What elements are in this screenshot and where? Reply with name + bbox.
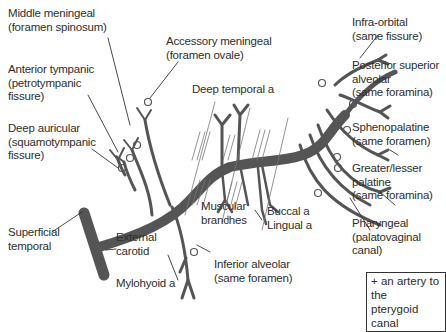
label-infra-orbital: Infra-orbital (same fissure) — [352, 16, 422, 43]
label-line: Infra-orbital — [352, 16, 422, 30]
label-middle-meningeal: Middle meningeal (foramen spinosum) — [8, 7, 107, 34]
label-line: Deep auricular — [8, 122, 96, 136]
note-line: + an artery to the — [371, 274, 441, 302]
label-line: Greater/lesser — [352, 162, 433, 176]
label-line: carotid — [116, 245, 157, 259]
label-line: (same foramina) — [352, 86, 439, 100]
label-line: (foramen ovale) — [166, 49, 272, 63]
label-line: temporal — [8, 240, 60, 254]
label-line: (foramen spinosum) — [8, 21, 107, 35]
label-line: branches — [201, 214, 247, 228]
note-box-pterygoid-canal: + an artery to the pterygoid canal — [366, 272, 446, 332]
label-line: Muscular — [201, 200, 247, 214]
label-line: fissure) — [8, 90, 94, 104]
note-line: pterygoid canal — [371, 302, 441, 330]
label-line: Lingual a — [267, 219, 312, 233]
label-line: (same foramen) — [214, 272, 292, 286]
label-line: Mylohyoid a — [116, 277, 175, 291]
label-posterior-superior-alveolar: Posterior superior alveolar (same forami… — [352, 59, 439, 100]
label-line: alveolar — [352, 73, 439, 87]
label-line: (same foramen) — [352, 135, 430, 149]
label-line: palatine — [352, 176, 433, 190]
label-line: (petrotympanic — [8, 77, 94, 91]
label-line: Anterior tympanic — [8, 63, 94, 77]
label-line: Inferior alveolar — [214, 258, 292, 272]
label-line: canal) — [352, 244, 421, 258]
label-line: Buccal a — [267, 205, 312, 219]
label-deep-auricular: Deep auricular (squamotympanic fissure) — [8, 122, 96, 163]
label-inferior-alveolar: Inferior alveolar (same foramen) — [214, 258, 292, 285]
label-line: (squamotympanic — [8, 136, 96, 150]
label-line: Deep temporal a — [192, 83, 274, 97]
label-line: Middle meningeal — [8, 7, 107, 21]
label-superficial-temporal: Superficial temporal — [8, 226, 60, 253]
label-line: Sphenopalatine — [352, 121, 430, 135]
label-external-carotid: External carotid — [116, 231, 157, 258]
label-line: (palatovaginal — [352, 231, 421, 245]
label-buccal-lingual: Buccal a Lingual a — [267, 205, 312, 232]
label-sphenopalatine: Sphenopalatine (same foramen) — [352, 121, 430, 148]
label-pharyngeal: Pharyngeal (palatovaginal canal) — [352, 217, 421, 258]
label-line: External — [116, 231, 157, 245]
label-line: Superficial — [8, 226, 60, 240]
label-greater-lesser-palatine: Greater/lesser palatine (same foramina) — [352, 162, 433, 203]
label-line: fissure) — [8, 149, 96, 163]
label-line: (same foramina) — [352, 189, 433, 203]
label-anterior-tympanic: Anterior tympanic (petrotympanic fissure… — [8, 63, 94, 104]
label-line: (same fissure) — [352, 30, 422, 44]
label-deep-temporal: Deep temporal a — [192, 83, 274, 97]
middle-meningeal-branch — [132, 150, 152, 215]
label-line: Pharyngeal — [352, 217, 421, 231]
label-muscular-branches: Muscular branches — [201, 200, 247, 227]
label-accessory-meningeal: Accessory meningeal (foramen ovale) — [166, 35, 272, 62]
label-mylohyoid: Mylohyoid a — [116, 277, 175, 291]
label-line: Accessory meningeal — [166, 35, 272, 49]
label-line: Posterior superior — [352, 59, 439, 73]
